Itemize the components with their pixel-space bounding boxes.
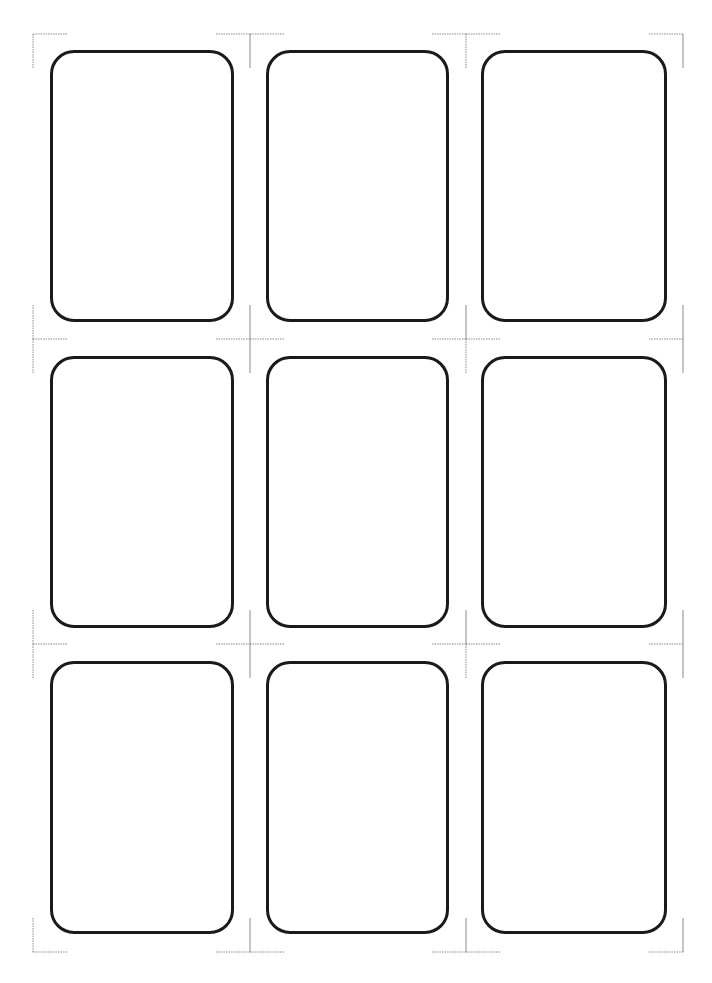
card-outline-r3-c1 [50,661,234,934]
card-outline-r2-c1 [50,356,234,628]
card-outline-r3-c3 [481,661,667,934]
card-outline-r1-c3 [481,50,667,322]
card-outline-r1-c2 [266,50,449,322]
card-outline-r2-c2 [266,356,449,628]
card-outline-r1-c1 [50,50,234,322]
card-outline-r3-c2 [266,661,449,934]
card-template-sheet [0,0,712,983]
card-outline-r2-c3 [481,356,667,628]
